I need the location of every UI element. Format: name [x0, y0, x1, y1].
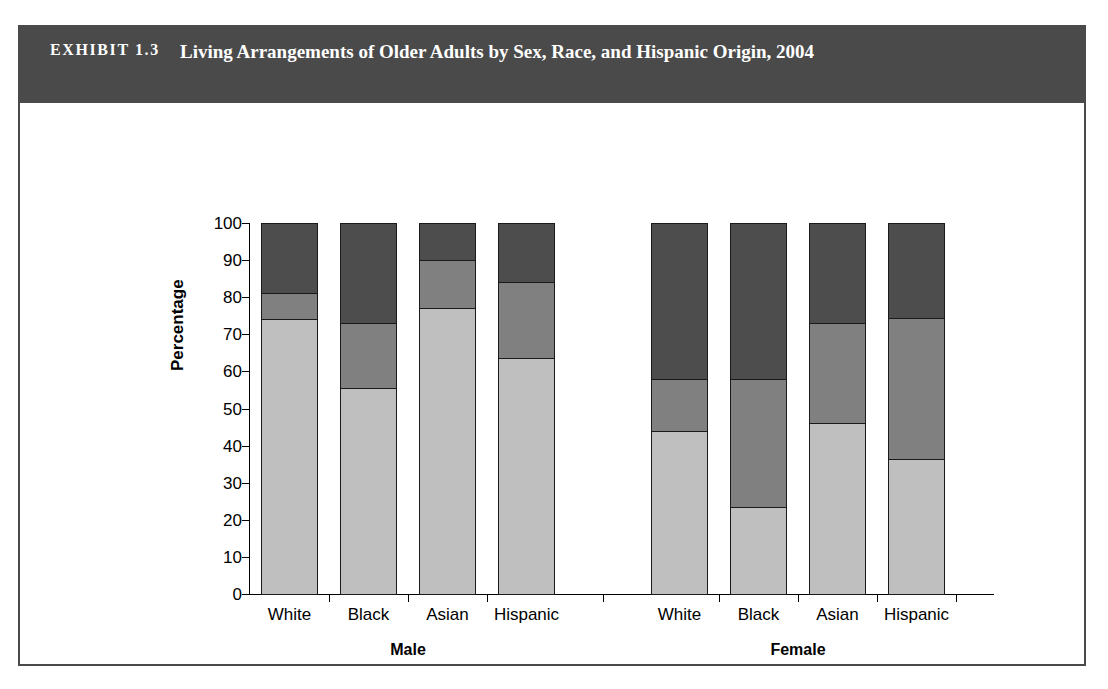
stacked-bar: [340, 223, 397, 594]
bar-segment: [809, 423, 866, 595]
y-tick-label: 90: [188, 252, 242, 269]
bar-series-container: [249, 223, 994, 594]
group-label: Female: [718, 641, 878, 659]
exhibit-title: Living Arrangements of Older Adults by S…: [180, 39, 950, 65]
bar-segment: [809, 323, 866, 424]
y-tick-label: 50: [188, 401, 242, 418]
bar-segment: [261, 319, 318, 595]
stacked-bar: [730, 223, 787, 594]
x-tick-mark: [408, 594, 409, 602]
bar-segment: [888, 318, 945, 460]
y-axis-ticks: 0102030405060708090100: [188, 103, 242, 662]
x-tick-label: Hispanic: [486, 605, 567, 625]
y-tick-mark: [242, 260, 249, 261]
y-tick-label: 60: [188, 363, 242, 380]
y-tick-label: 10: [188, 549, 242, 566]
stacked-bar: [498, 223, 555, 594]
x-tick-mark: [877, 594, 878, 602]
y-tick-mark: [242, 409, 249, 410]
x-tick-mark: [603, 594, 604, 602]
stacked-bar: [651, 223, 708, 594]
x-tick-label: White: [639, 605, 720, 625]
exhibit-number: EXHIBIT 1.3: [50, 39, 180, 59]
bar-segment: [888, 459, 945, 595]
y-tick-mark: [242, 371, 249, 372]
bar-segment: [340, 388, 397, 595]
y-tick-label: 40: [188, 438, 242, 455]
bar-segment: [651, 379, 708, 432]
bar-segment: [888, 223, 945, 319]
bar-segment: [419, 223, 476, 261]
bar-segment: [261, 293, 318, 320]
x-tick-label: Black: [718, 605, 799, 625]
bar-segment: [261, 223, 318, 294]
y-tick-mark: [242, 483, 249, 484]
y-tick-label: 20: [188, 512, 242, 529]
bar-segment: [340, 223, 397, 324]
stacked-bar: [888, 223, 945, 594]
bar-segment: [498, 358, 555, 595]
x-tick-mark: [487, 594, 488, 602]
bar-segment: [651, 223, 708, 380]
x-tick-label: Asian: [407, 605, 488, 625]
bar-segment: [730, 507, 787, 595]
x-tick-mark: [329, 594, 330, 602]
x-tick-label: Asian: [797, 605, 878, 625]
exhibit-header: EXHIBIT 1.3Living Arrangements of Older …: [18, 25, 1086, 103]
stacked-bar: [261, 223, 318, 594]
group-label: Male: [328, 641, 488, 659]
bar-segment: [340, 323, 397, 389]
bar-segment: [730, 379, 787, 508]
y-tick-label: 80: [188, 289, 242, 306]
y-tick-mark: [242, 557, 249, 558]
y-tick-label: 0: [188, 586, 242, 603]
x-tick-mark: [798, 594, 799, 602]
y-tick-mark: [242, 594, 249, 595]
plot-area: Percentage 0102030405060708090100 WhiteB…: [20, 103, 1084, 662]
bar-segment: [419, 308, 476, 595]
chart-panel: Percentage 0102030405060708090100 WhiteB…: [18, 103, 1086, 666]
bar-segment: [651, 431, 708, 595]
y-tick-mark: [242, 334, 249, 335]
y-tick-label: 70: [188, 326, 242, 343]
y-tick-label: 100: [188, 215, 242, 232]
bar-segment: [498, 223, 555, 283]
bar-segment: [419, 260, 476, 309]
bar-segment: [730, 223, 787, 380]
bar-segment: [498, 282, 555, 359]
y-tick-mark: [242, 223, 249, 224]
stacked-bar: [419, 223, 476, 594]
y-tick-mark: [242, 520, 249, 521]
y-tick-mark: [242, 297, 249, 298]
y-tick-mark: [242, 446, 249, 447]
x-tick-label: White: [249, 605, 330, 625]
y-tick-label: 30: [188, 475, 242, 492]
bar-segment: [809, 223, 866, 324]
y-axis-label: Percentage: [168, 279, 188, 371]
stacked-bar: [809, 223, 866, 594]
x-tick-mark: [719, 594, 720, 602]
x-tick-mark: [956, 594, 957, 602]
x-tick-label: Hispanic: [876, 605, 957, 625]
exhibit-figure: EXHIBIT 1.3Living Arrangements of Older …: [18, 25, 1086, 666]
x-tick-label: Black: [328, 605, 409, 625]
